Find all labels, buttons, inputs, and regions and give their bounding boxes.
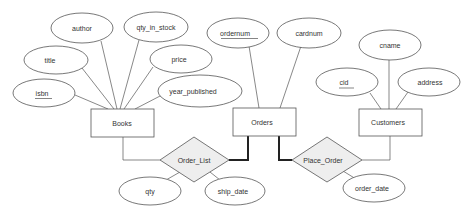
attribute-cid-key: cid bbox=[316, 68, 378, 96]
svg-text:title: title bbox=[45, 57, 56, 64]
attribute-ship-date: ship_date bbox=[205, 177, 265, 205]
svg-text:order_date: order_date bbox=[355, 185, 389, 193]
attribute-price: price bbox=[150, 45, 212, 73]
svg-text:qty: qty bbox=[145, 188, 155, 196]
svg-text:ordernum: ordernum bbox=[220, 30, 250, 37]
svg-text:cid: cid bbox=[340, 79, 349, 86]
attribute-address: address bbox=[398, 68, 460, 96]
relationship-place-order: Place_Order bbox=[292, 137, 362, 182]
svg-text:year_published: year_published bbox=[169, 88, 217, 96]
attribute-ordernum-key: ordernum bbox=[207, 18, 269, 48]
attribute-cardnum: cardnum bbox=[277, 18, 341, 48]
orders-attribute-connectors bbox=[249, 46, 301, 108]
svg-text:Order_List: Order_List bbox=[178, 157, 211, 165]
svg-text:Place_Order: Place_Order bbox=[303, 157, 343, 165]
svg-text:cname: cname bbox=[379, 42, 400, 49]
entity-books: Books bbox=[91, 109, 154, 137]
attribute-isbn-key: isbn bbox=[13, 79, 75, 107]
svg-text:author: author bbox=[72, 25, 93, 32]
svg-text:qty_in_stock: qty_in_stock bbox=[137, 24, 176, 32]
svg-text:price: price bbox=[171, 56, 186, 64]
svg-text:address: address bbox=[418, 79, 443, 86]
attribute-author: author bbox=[51, 13, 113, 43]
attribute-title: title bbox=[24, 46, 88, 74]
attribute-year-published: year_published bbox=[158, 75, 242, 107]
svg-text:Books: Books bbox=[112, 120, 132, 127]
svg-text:ship_date: ship_date bbox=[218, 188, 248, 196]
attribute-cname: cname bbox=[359, 30, 421, 60]
entity-customers: Customers bbox=[359, 109, 422, 136]
er-diagram: author qty_in_stock title price isbn yea… bbox=[0, 0, 467, 214]
svg-text:Customers: Customers bbox=[371, 119, 405, 126]
svg-text:cardnum: cardnum bbox=[295, 30, 322, 37]
attribute-order-date: order_date bbox=[343, 174, 405, 202]
svg-text:Orders: Orders bbox=[251, 119, 273, 126]
attribute-qty-in-stock: qty_in_stock bbox=[124, 12, 188, 42]
svg-text:isbn: isbn bbox=[36, 90, 49, 97]
attribute-qty: qty bbox=[119, 177, 181, 205]
relationship-order-list: Order_List bbox=[160, 137, 229, 182]
entity-orders: Orders bbox=[233, 108, 296, 136]
books-attribute-connectors bbox=[75, 40, 162, 109]
